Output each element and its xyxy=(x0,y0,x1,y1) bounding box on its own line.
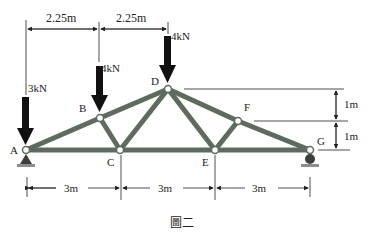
dim-right-2: 1m xyxy=(344,130,359,142)
joint-C xyxy=(117,147,124,154)
load-label-D: 4kN xyxy=(171,30,190,42)
member-EF xyxy=(215,121,238,150)
dim-top-2: 2.25m xyxy=(116,11,147,25)
roller-support-G xyxy=(301,154,319,167)
dim-top-1: 2.25m xyxy=(46,11,77,25)
dim-bottom-1: 3m xyxy=(64,182,79,194)
truss-members xyxy=(26,89,310,150)
joint-G xyxy=(307,147,314,154)
truss-diagram: 2.25m 2.25m 3kN 4kN 4kN A B C D E F G 1m… xyxy=(0,0,368,235)
member-AB xyxy=(26,118,100,150)
joints xyxy=(23,86,314,154)
load-label-A: 3kN xyxy=(28,82,47,94)
joint-label-C: C xyxy=(107,156,114,168)
figure-caption: 圖二 xyxy=(170,216,194,230)
joint-label-B: B xyxy=(79,102,86,114)
joint-label-A: A xyxy=(10,144,18,156)
dim-bottom-2: 3m xyxy=(158,182,173,194)
joint-B xyxy=(97,115,104,122)
member-FG xyxy=(238,121,310,150)
load-arrow-A xyxy=(17,97,34,145)
joint-A xyxy=(23,147,30,154)
joint-label-G: G xyxy=(317,135,325,147)
load-arrow-D xyxy=(159,36,176,83)
dim-right-1: 1m xyxy=(344,98,359,110)
joint-E xyxy=(212,147,219,154)
load-label-B: 4kN xyxy=(101,62,120,74)
joint-F xyxy=(235,118,242,125)
pin-support-A xyxy=(17,154,35,167)
member-BC xyxy=(100,118,120,150)
joint-label-D: D xyxy=(151,75,159,87)
joint-label-F: F xyxy=(244,101,250,113)
dim-bottom-3: 3m xyxy=(252,182,267,194)
joint-D xyxy=(165,86,172,93)
joint-label-E: E xyxy=(202,156,209,168)
